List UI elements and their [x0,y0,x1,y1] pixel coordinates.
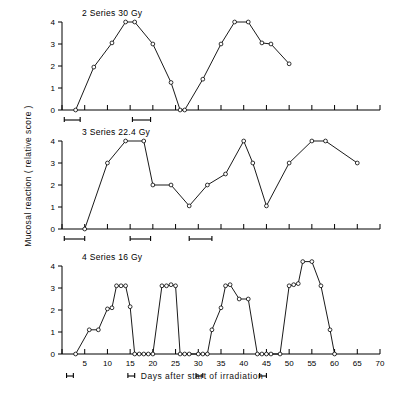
panel-title: 2 Series 30 Gy [82,8,143,18]
data-line [85,141,358,229]
x-tick-label: 5 [82,359,87,368]
x-tick-label: 70 [376,359,385,368]
data-point-marker [255,352,259,356]
x-tick-label: 45 [262,359,271,368]
data-point-marker [242,139,246,143]
data-point-marker [260,352,264,356]
data-point-marker [110,306,114,310]
data-point-marker [124,139,128,143]
data-point-marker [278,352,282,356]
data-point-marker [174,284,178,288]
data-point-marker [224,172,228,176]
data-point-marker [169,183,173,187]
y-tick-label: 1 [51,203,56,212]
data-point-marker [219,306,223,310]
data-point-marker [251,161,255,165]
data-point-marker [310,139,314,143]
data-point-marker [296,282,300,286]
data-point-marker [133,352,137,356]
data-point-marker [151,42,155,46]
y-tick-label: 0 [51,106,56,115]
y-tick-label: 4 [51,262,56,271]
y-axis-label: Mucosal reaction ( relative score ) [23,76,33,276]
y-tick-label: 3 [51,159,56,168]
y-tick-label: 2 [51,306,56,315]
y-tick-label: 1 [51,328,56,337]
data-point-marker [201,352,205,356]
y-tick-label: 0 [51,350,56,359]
panel-2: 012343 Series 22.4 Gy [51,127,380,241]
data-point-marker [87,328,91,332]
data-line [76,22,290,110]
x-tick-label: 40 [239,359,248,368]
data-point-marker [151,183,155,187]
y-tick-label: 4 [51,18,56,27]
panel-title: 4 Series 16 Gy [82,252,143,262]
data-point-marker [110,41,114,45]
data-point-marker [319,284,323,288]
data-point-marker [137,352,141,356]
data-point-marker [187,352,191,356]
chart-svg: 012342 Series 30 Gy012343 Series 22.4 Gy… [0,0,404,399]
x-tick-label: 15 [126,359,135,368]
y-tick-label: 2 [51,62,56,71]
data-point-marker [115,284,119,288]
data-point-marker [205,183,209,187]
data-point-marker [178,108,182,112]
data-point-marker [260,41,264,45]
data-point-marker [160,284,164,288]
x-tick-label: 65 [353,359,362,368]
x-tick-label: 60 [330,359,339,368]
data-point-marker [246,297,250,301]
data-point-marker [237,297,241,301]
x-tick-label: 50 [285,359,294,368]
x-axis-label: Days after start of irradiation [0,371,404,381]
data-point-marker [92,65,96,69]
y-tick-label: 2 [51,181,56,190]
y-tick-label: 1 [51,84,56,93]
data-point-marker [265,204,269,208]
y-tick-label: 0 [51,225,56,234]
data-point-marker [142,352,146,356]
x-tick-label: 35 [217,359,226,368]
data-point-marker [169,283,173,287]
y-tick-label: 3 [51,40,56,49]
data-point-marker [210,328,214,332]
data-point-marker [183,352,187,356]
data-point-marker [178,352,182,356]
data-point-marker [287,161,291,165]
panels-root: 012342 Series 30 Gy012343 Series 22.4 Gy… [51,8,385,378]
y-tick-label: 4 [51,137,56,146]
data-point-marker [287,284,291,288]
data-point-marker [228,283,232,287]
data-point-marker [106,161,110,165]
data-point-marker [106,307,110,311]
data-point-marker [124,20,128,24]
figure-container: Mucosal reaction ( relative score ) 0123… [0,0,404,399]
data-point-marker [146,352,150,356]
data-point-marker [83,227,87,231]
data-point-marker [169,81,173,85]
data-point-marker [187,204,191,208]
data-point-marker [74,352,78,356]
data-point-marker [233,20,237,24]
data-point-marker [301,260,305,264]
data-point-marker [196,352,200,356]
data-point-marker [219,42,223,46]
data-point-marker [74,108,78,112]
data-point-marker [205,352,209,356]
data-point-marker [133,20,137,24]
data-point-marker [151,352,155,356]
data-point-marker [310,260,314,264]
data-point-marker [287,62,291,66]
panel-1: 012342 Series 30 Gy [51,8,380,122]
x-tick-label: 25 [171,359,180,368]
panel-3: 012345101520253035404550556065704 Series… [51,252,385,378]
data-point-marker [183,108,187,112]
data-point-marker [96,328,100,332]
y-tick-label: 3 [51,284,56,293]
data-point-marker [201,77,205,81]
data-point-marker [355,161,359,165]
x-tick-label: 30 [194,359,203,368]
x-tick-label: 10 [103,359,112,368]
